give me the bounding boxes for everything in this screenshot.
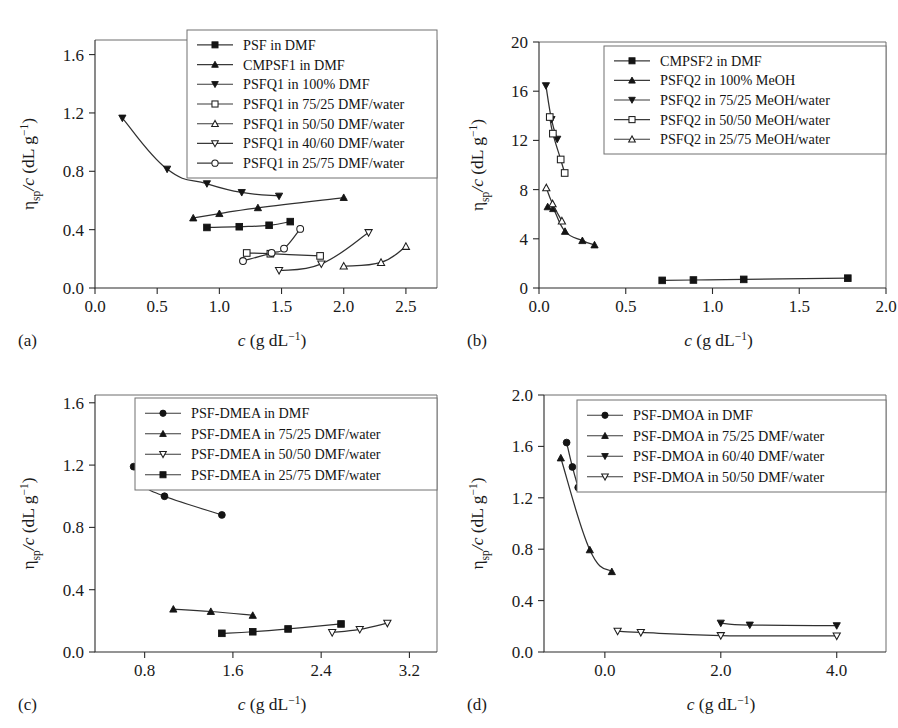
data-marker [236, 223, 243, 230]
series-line [193, 198, 343, 218]
y-tick-label: 1.6 [512, 437, 533, 456]
series-psf-dmea-in-75-25-dmf-water [170, 606, 257, 619]
y-tick-label: 12 [511, 131, 528, 150]
legend-label: PSF-DMEA in 50/50 DMF/water [191, 446, 381, 462]
figure-root: 0.00.51.01.52.02.50.00.40.81.21.6PSF in … [0, 0, 898, 728]
x-tick-label: 2.0 [333, 297, 354, 316]
series-psf-in-dmf [204, 218, 294, 230]
data-marker [690, 277, 697, 284]
panel-label-a: (a) [18, 331, 37, 350]
data-marker [212, 42, 218, 48]
data-marker [549, 200, 556, 207]
x-tick-label: 1.0 [209, 297, 230, 316]
data-marker [546, 114, 553, 121]
series-line [247, 253, 320, 256]
data-marker [569, 464, 576, 471]
data-marker [204, 224, 211, 231]
y-tick-label: 4 [520, 230, 529, 249]
x-tick-label: 1.5 [789, 297, 810, 316]
y-tick-label: 0.8 [63, 518, 84, 537]
legend-label: PSFQ2 in 100% MeOH [660, 72, 795, 88]
data-marker [287, 218, 294, 225]
legend-label: PSF-DMOA in 75/25 DMF/water [633, 428, 824, 444]
legend-label: PSFQ1 in 40/60 DMF/water [243, 135, 404, 151]
series-psf-dmoa-in-50-50-dmf-water [614, 628, 840, 639]
data-marker [586, 546, 593, 553]
series-line [207, 222, 290, 228]
data-marker [563, 439, 570, 446]
data-marker [317, 253, 324, 260]
x-tick-label: 2.4 [311, 661, 333, 680]
series-line [550, 117, 565, 173]
data-marker [557, 454, 564, 461]
series-psf-dmea-in-25-75-dmf-water [219, 621, 345, 637]
data-marker [243, 250, 250, 257]
legend-label: CMPSF1 in DMF [243, 57, 345, 73]
data-marker [542, 83, 549, 90]
series-line [344, 246, 406, 266]
legend-label: PSF-DMEA in 25/75 DMF/water [191, 467, 381, 483]
data-marker [740, 276, 747, 283]
data-marker [268, 250, 275, 257]
legend-label: PSFQ1 in 50/50 DMF/water [243, 116, 404, 132]
data-marker [338, 621, 345, 628]
x-axis-title: c (g dL−1) [684, 330, 753, 350]
y-tick-label: 1.2 [63, 104, 84, 123]
y-tick-label: 1.6 [63, 394, 84, 413]
panel-label-d: (d) [467, 695, 487, 714]
data-marker [659, 277, 666, 284]
y-tick-label: 0.8 [63, 162, 84, 181]
legend-label: PSF in DMF [243, 37, 316, 53]
series-psfq1-in-25-75-dmf-water [240, 226, 304, 265]
y-tick-label: 20 [511, 33, 528, 52]
y-axis-title: ηsp/c (dL g−1) [467, 119, 492, 211]
y-tick-label: 16 [511, 82, 528, 101]
data-marker [266, 222, 273, 229]
legend-label: PSFQ2 in 25/75 MeOH/water [660, 131, 830, 147]
x-tick-label: 0.5 [147, 297, 168, 316]
x-tick-label: 2.0 [875, 297, 896, 316]
series-cmpsf2-in-dmf [659, 275, 851, 284]
data-marker [579, 237, 586, 244]
y-tick-label: 0 [520, 279, 529, 298]
y-tick-label: 1.2 [512, 489, 533, 508]
series-line [222, 624, 341, 633]
data-marker [218, 512, 225, 519]
x-axis-title: c (g dL−1) [238, 694, 307, 714]
data-marker [561, 170, 568, 177]
data-marker [550, 130, 557, 137]
y-tick-label: 1.2 [63, 456, 84, 475]
panel-label-b: (b) [467, 331, 487, 350]
y-tick-label: 8 [520, 181, 529, 200]
data-marker [318, 261, 325, 268]
legend: CMPSF2 in DMFPSFQ2 in 100% MeOHPSFQ2 in … [604, 46, 886, 154]
x-axis-title: c (g dL−1) [238, 330, 307, 350]
y-tick-label: 2.0 [512, 386, 533, 405]
x-tick-label: 1.5 [271, 297, 292, 316]
x-tick-label: 0.0 [528, 297, 549, 316]
data-marker [161, 493, 168, 500]
series-cmpsf1-in-dmf [190, 194, 348, 221]
x-tick-label: 2.5 [395, 297, 416, 316]
data-marker [629, 58, 635, 64]
data-marker [608, 568, 615, 575]
series-psfq2-in-100-meoh [544, 203, 598, 248]
y-axis-title: ηsp/c (dL g−1) [18, 118, 43, 210]
y-tick-label: 0.0 [63, 279, 84, 298]
chart-panel-a: 0.00.51.01.52.02.50.00.40.81.21.6PSF in … [0, 0, 449, 364]
chart-panel-d: 0.02.04.00.00.40.81.21.62.0PSF-DMOA in D… [449, 364, 898, 728]
data-marker [297, 226, 304, 233]
data-marker [285, 626, 292, 633]
x-axis-title: c (g dL−1) [687, 694, 756, 714]
data-marker [845, 275, 852, 282]
x-tick-label: 4.0 [826, 661, 847, 680]
legend: PSF in DMFCMPSF1 in DMFPSFQ1 in 100% DMF… [187, 30, 437, 178]
legend-label: PSF-DMOA in 60/40 DMF/water [633, 448, 824, 464]
legend: PSF-DMOA in DMFPSF-DMOA in 75/25 DMF/wat… [577, 400, 886, 492]
series-line [618, 631, 837, 636]
legend-label: PSF-DMEA in 75/25 DMF/water [191, 426, 381, 442]
x-tick-label: 0.8 [134, 661, 155, 680]
legend-label: PSF-DMOA in DMF [633, 407, 753, 423]
x-tick-label: 0.0 [594, 661, 615, 680]
data-marker [558, 217, 565, 224]
